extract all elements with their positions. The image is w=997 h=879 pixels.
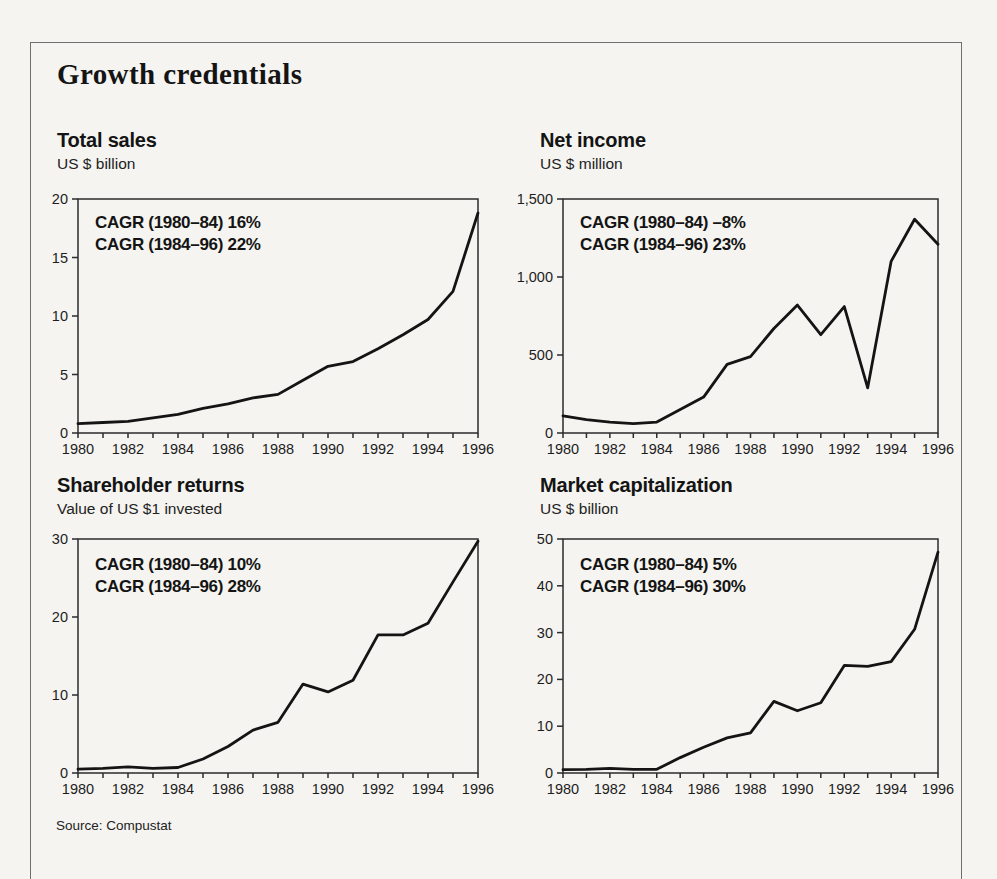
chart-subtitle-net-income: US $ million	[540, 155, 646, 173]
chart-subtitle-market-capitalization: US $ billion	[540, 500, 733, 518]
figure-page: Growth credentials Total sales US $ bill…	[0, 0, 997, 879]
market-capitalization-chart: 0102030405019801982198419861988199019921…	[510, 528, 975, 813]
svg-text:5: 5	[60, 367, 68, 383]
svg-text:15: 15	[52, 250, 68, 266]
panel-header-total-sales: Total sales US $ billion	[57, 129, 157, 173]
svg-text:0: 0	[60, 765, 68, 781]
svg-text:1980: 1980	[547, 441, 579, 457]
svg-text:1984: 1984	[641, 441, 673, 457]
svg-text:500: 500	[529, 347, 553, 363]
svg-text:1992: 1992	[362, 441, 394, 457]
svg-text:1986: 1986	[687, 441, 719, 457]
svg-text:20: 20	[537, 671, 553, 687]
svg-text:1986: 1986	[687, 781, 719, 797]
svg-text:0: 0	[60, 425, 68, 441]
svg-text:1980: 1980	[547, 781, 579, 797]
svg-text:1992: 1992	[362, 781, 394, 797]
svg-text:1996: 1996	[462, 781, 494, 797]
chart-title-market-capitalization: Market capitalization	[540, 474, 733, 497]
svg-text:1982: 1982	[112, 781, 144, 797]
shareholder-returns-chart: 0102030198019821984198619881990199219941…	[28, 528, 498, 813]
svg-text:1988: 1988	[262, 781, 294, 797]
svg-text:1982: 1982	[594, 441, 626, 457]
svg-text:1984: 1984	[162, 441, 194, 457]
svg-text:1994: 1994	[412, 781, 444, 797]
svg-text:1990: 1990	[781, 441, 813, 457]
svg-text:1994: 1994	[875, 781, 907, 797]
svg-text:20: 20	[52, 609, 68, 625]
panel-header-net-income: Net income US $ million	[540, 129, 646, 173]
svg-text:1984: 1984	[162, 781, 194, 797]
chart-subtitle-total-sales: US $ billion	[57, 155, 157, 173]
chart-subtitle-shareholder-returns: Value of US $1 invested	[57, 500, 244, 518]
svg-text:0: 0	[545, 765, 553, 781]
svg-text:1982: 1982	[594, 781, 626, 797]
svg-text:40: 40	[537, 578, 553, 594]
svg-text:30: 30	[537, 625, 553, 641]
svg-text:1990: 1990	[312, 781, 344, 797]
svg-text:1992: 1992	[828, 781, 860, 797]
svg-text:10: 10	[52, 687, 68, 703]
svg-text:1992: 1992	[828, 441, 860, 457]
svg-text:1984: 1984	[641, 781, 673, 797]
svg-text:1996: 1996	[462, 441, 494, 457]
svg-text:50: 50	[537, 531, 553, 547]
svg-text:1990: 1990	[781, 781, 813, 797]
svg-text:1988: 1988	[734, 441, 766, 457]
figure-title: Growth credentials	[57, 58, 302, 91]
chart-title-net-income: Net income	[540, 129, 646, 152]
svg-text:1988: 1988	[734, 781, 766, 797]
svg-text:30: 30	[52, 531, 68, 547]
chart-title-total-sales: Total sales	[57, 129, 157, 152]
svg-text:1996: 1996	[922, 781, 954, 797]
svg-text:1982: 1982	[112, 441, 144, 457]
panel-header-market-capitalization: Market capitalization US $ billion	[540, 474, 733, 518]
chart-title-shareholder-returns: Shareholder returns	[57, 474, 244, 497]
net-income-chart: 05001,0001,50019801982198419861988199019…	[510, 188, 975, 473]
svg-text:1988: 1988	[262, 441, 294, 457]
svg-text:1980: 1980	[62, 781, 94, 797]
svg-text:20: 20	[52, 191, 68, 207]
svg-text:1,000: 1,000	[517, 269, 553, 285]
svg-text:1986: 1986	[212, 781, 244, 797]
svg-text:0: 0	[545, 425, 553, 441]
svg-text:1994: 1994	[875, 441, 907, 457]
svg-text:1,500: 1,500	[517, 191, 553, 207]
total-sales-chart: 0510152019801982198419861988199019921994…	[28, 188, 498, 473]
svg-text:1986: 1986	[212, 441, 244, 457]
source-note: Source: Compustat	[56, 818, 172, 833]
svg-text:1990: 1990	[312, 441, 344, 457]
panel-header-shareholder-returns: Shareholder returns Value of US $1 inves…	[57, 474, 244, 518]
svg-text:1996: 1996	[922, 441, 954, 457]
svg-text:1994: 1994	[412, 441, 444, 457]
svg-text:10: 10	[52, 308, 68, 324]
svg-text:1980: 1980	[62, 441, 94, 457]
svg-text:10: 10	[537, 718, 553, 734]
